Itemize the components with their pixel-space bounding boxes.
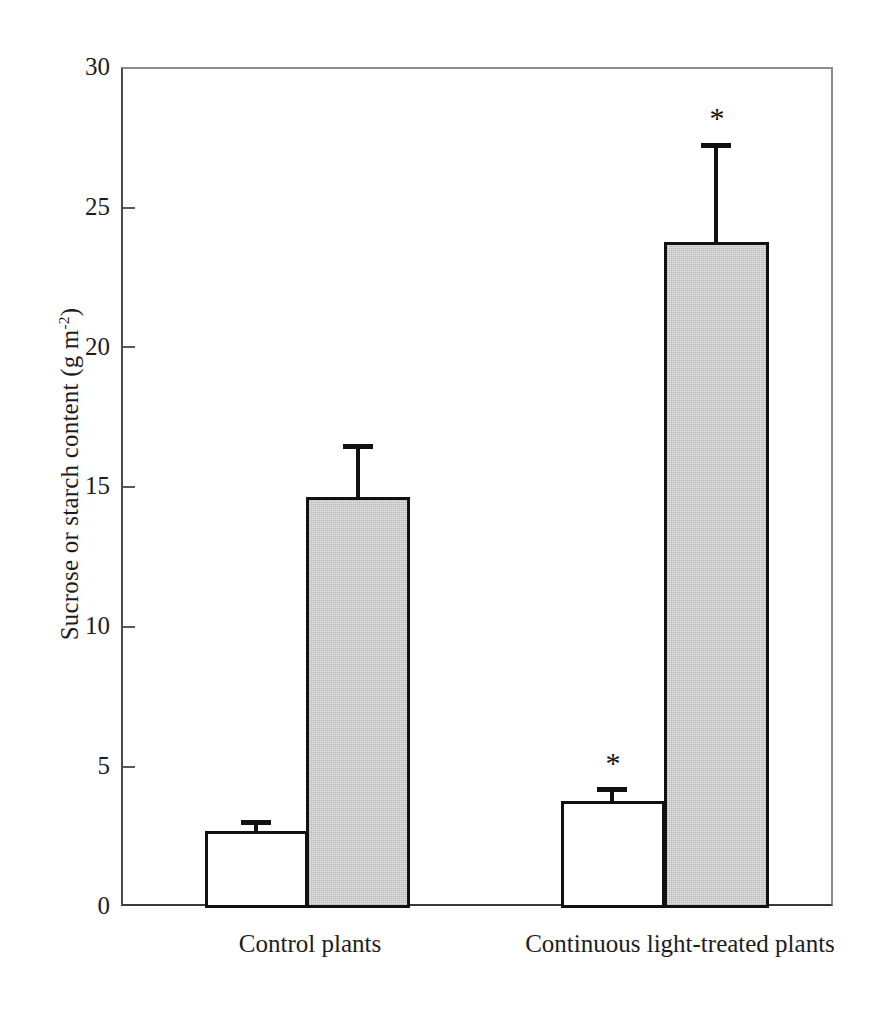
errorbar-cap-continuous-light-starch [701,143,731,148]
x-axis-category-label-continuous-light: Continuous light-treated plants [480,930,879,958]
significance-asterisk-continuous-light-sucrose: * [598,748,628,778]
errorbar-cap-control-sucrose [241,820,271,825]
bar-chart-figure: Sucrose or starch content (g m-2) 30 25 … [0,0,879,1010]
errorbar-stem-continuous-light-starch [714,146,718,244]
significance-asterisk-continuous-light-starch: * [702,103,732,133]
errorbar-stem-control-starch [356,447,360,499]
bar-continuous-light-starch[interactable] [664,242,769,908]
errorbar-cap-continuous-light-sucrose [597,787,627,792]
bar-control-starch[interactable] [306,497,410,908]
errorbar-cap-control-starch [343,444,373,449]
bars-layer: * * [0,0,879,1010]
bar-continuous-light-sucrose[interactable] [561,801,665,908]
x-axis-category-label-control: Control plants [180,930,440,958]
bar-control-sucrose[interactable] [205,831,308,908]
